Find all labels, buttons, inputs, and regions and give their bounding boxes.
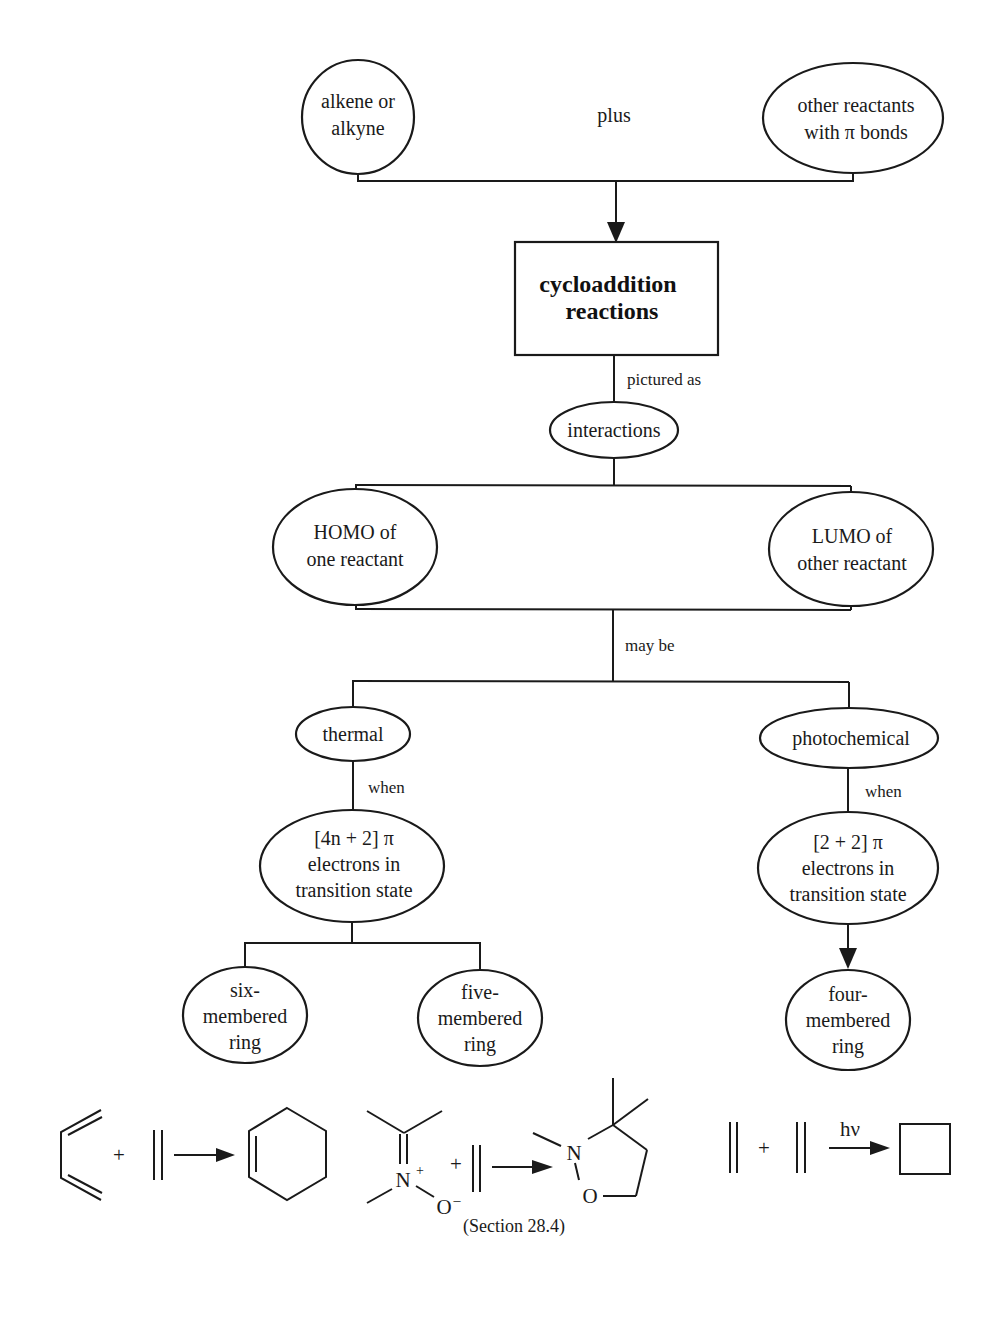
oxygen-label: O bbox=[436, 1195, 451, 1219]
negative-charge: – bbox=[453, 1193, 462, 1208]
top-connectors bbox=[357, 173, 854, 243]
node-line: with π bonds bbox=[804, 121, 908, 143]
plus-sign: + bbox=[113, 1143, 125, 1167]
node-line: other reactant bbox=[797, 552, 907, 574]
nitrogen-label: N bbox=[395, 1168, 410, 1192]
node-2-plus-2: [2 + 2] π electrons in transition state bbox=[758, 812, 938, 924]
may-be-label: may be bbox=[625, 636, 675, 655]
cyclohexene-structure bbox=[249, 1108, 326, 1200]
node-photochemical: photochemical bbox=[760, 708, 938, 768]
arrow-down-icon bbox=[839, 948, 857, 969]
node-cycloaddition-reactions: cycloaddition reactions bbox=[515, 242, 718, 355]
arrow-down-icon bbox=[607, 222, 625, 243]
plus-sign: + bbox=[450, 1152, 462, 1176]
node-line: five- bbox=[461, 981, 499, 1003]
node-other-reactants: other reactants with π bonds bbox=[763, 63, 943, 173]
isoxazolidine-structure: N O bbox=[533, 1078, 648, 1208]
node-six-membered-ring: six- membered ring bbox=[183, 967, 307, 1063]
node-line: electrons in bbox=[308, 853, 401, 875]
ethene-structure bbox=[473, 1145, 480, 1192]
pictured-as-label: pictured as bbox=[627, 370, 701, 389]
when-label-right: when bbox=[865, 782, 902, 801]
node-line: four- bbox=[828, 983, 868, 1005]
node-line: electrons in bbox=[802, 857, 895, 879]
node-homo: HOMO of one reactant bbox=[273, 489, 437, 605]
node-line: LUMO of bbox=[812, 525, 893, 547]
node-line: thermal bbox=[322, 723, 384, 745]
arrow-right-icon bbox=[216, 1148, 235, 1162]
node-four-membered-ring: four- membered ring bbox=[786, 970, 910, 1070]
node-five-membered-ring: five- membered ring bbox=[418, 970, 542, 1066]
node-lumo: LUMO of other reactant bbox=[769, 492, 933, 606]
node-line: membered bbox=[806, 1009, 890, 1031]
node-line: transition state bbox=[295, 879, 412, 901]
arrow-right-icon bbox=[532, 1160, 553, 1174]
node-line: ring bbox=[229, 1031, 261, 1054]
node-line: HOMO of bbox=[314, 521, 397, 543]
node-line: alkene or bbox=[321, 90, 395, 112]
node-line: cycloaddition bbox=[539, 271, 676, 297]
node-interactions: interactions bbox=[550, 402, 678, 458]
node-4n-plus-2: [4n + 2] π electrons in transition state bbox=[260, 810, 444, 922]
node-thermal: thermal bbox=[296, 707, 410, 761]
node-line: alkyne bbox=[331, 117, 384, 140]
ethene-structure bbox=[730, 1122, 737, 1173]
cyclobutane-structure bbox=[900, 1124, 950, 1174]
butadiene-structure bbox=[61, 1110, 102, 1200]
ethene-structure bbox=[154, 1130, 162, 1180]
nitrogen-label: N bbox=[566, 1141, 581, 1165]
plus-sign: + bbox=[758, 1136, 770, 1160]
ring-connectors bbox=[244, 922, 857, 972]
section-caption: (Section 28.4) bbox=[463, 1216, 565, 1237]
node-line: membered bbox=[203, 1005, 287, 1027]
node-line: one reactant bbox=[306, 548, 404, 570]
plus-label: plus bbox=[597, 104, 631, 127]
hv-condition: hν bbox=[840, 1117, 860, 1141]
node-alkene-or-alkyne: alkene or alkyne bbox=[302, 60, 414, 174]
node-line: [2 + 2] π bbox=[813, 831, 883, 853]
node-line: other reactants bbox=[797, 94, 914, 116]
node-line: six- bbox=[230, 979, 260, 1001]
node-line: interactions bbox=[567, 419, 661, 441]
nitrone-structure: N + O – bbox=[367, 1111, 462, 1219]
node-line: photochemical bbox=[792, 727, 910, 750]
arrow-right-icon bbox=[870, 1141, 890, 1155]
node-line: reactions bbox=[566, 298, 659, 324]
oxygen-label: O bbox=[582, 1184, 597, 1208]
reaction-dipolar-cycloaddition: N + O – + N O bbox=[367, 1078, 648, 1219]
node-line: membered bbox=[438, 1007, 522, 1029]
cycloaddition-concept-map: alkene or alkyne plus other reactants wi… bbox=[0, 0, 1006, 1337]
node-line: ring bbox=[464, 1033, 496, 1056]
reaction-photochemical-2-plus-2: + hν bbox=[730, 1117, 950, 1174]
node-line: transition state bbox=[789, 883, 906, 905]
node-line: [4n + 2] π bbox=[314, 827, 394, 849]
node-line: ring bbox=[832, 1035, 864, 1058]
when-label-left: when bbox=[368, 778, 405, 797]
reaction-diels-alder: + bbox=[61, 1108, 326, 1200]
positive-charge: + bbox=[416, 1163, 424, 1178]
ethene-structure bbox=[797, 1122, 805, 1173]
